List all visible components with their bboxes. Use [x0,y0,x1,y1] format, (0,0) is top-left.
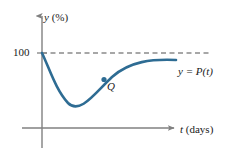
figure-container: y (%) 100 Q y = P(t) t (days) [0,0,231,155]
y-axis-unit: (%) [49,11,68,23]
curve-equation-label: y = P(t) [178,66,213,77]
y-axis-label: y (%) [44,12,68,23]
point-q-marker [101,77,106,82]
x-axis-label: t (days) [180,124,213,135]
point-q-label: Q [107,81,115,92]
x-axis-unit: (days) [183,123,213,135]
y-tick-label-100: 100 [13,47,30,58]
